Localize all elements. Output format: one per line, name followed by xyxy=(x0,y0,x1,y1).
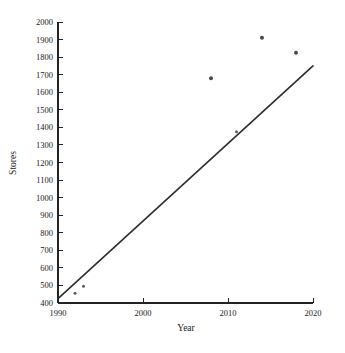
y-tick-label: 1000 xyxy=(36,193,53,203)
chart-container: 4005006007008009001000110012001300140015… xyxy=(0,0,345,353)
y-tick-label: 500 xyxy=(40,280,53,290)
scatter-point xyxy=(209,76,213,80)
y-axis-ticks xyxy=(58,22,63,303)
y-axis: 4005006007008009001000110012001300140015… xyxy=(36,17,63,308)
x-tick-label: 1990 xyxy=(50,308,67,318)
y-tick-label: 1500 xyxy=(36,105,53,115)
y-tick-label: 1100 xyxy=(36,175,53,185)
y-tick-label: 1600 xyxy=(36,87,53,97)
x-axis-ticks xyxy=(58,298,313,303)
x-axis-tick-labels: 1990200020102020 xyxy=(50,308,322,318)
y-tick-label: 1300 xyxy=(36,140,53,150)
x-tick-label: 2010 xyxy=(220,308,237,318)
y-tick-label: 800 xyxy=(40,228,53,238)
data-series-layer xyxy=(58,36,313,299)
y-tick-label: 1900 xyxy=(36,35,53,45)
y-tick-label: 1800 xyxy=(36,52,53,62)
scatter-point xyxy=(235,130,238,133)
y-tick-label: 600 xyxy=(40,263,53,273)
y-tick-label: 700 xyxy=(40,245,53,255)
y-axis-title: Stores xyxy=(8,151,18,175)
scatter-point xyxy=(294,51,298,55)
x-axis: 1990200020102020 xyxy=(50,298,322,318)
trend-line-series xyxy=(58,66,313,299)
trend-line xyxy=(58,66,313,299)
y-tick-label: 400 xyxy=(40,298,53,308)
scatter-plot: 4005006007008009001000110012001300140015… xyxy=(0,0,345,353)
x-tick-label: 2020 xyxy=(305,308,322,318)
x-tick-label: 2000 xyxy=(135,308,152,318)
scatter-points-series xyxy=(74,36,299,295)
scatter-point xyxy=(74,292,77,295)
y-tick-label: 1400 xyxy=(36,122,53,132)
y-tick-label: 1200 xyxy=(36,158,53,168)
y-tick-label: 2000 xyxy=(36,17,53,27)
y-tick-label: 900 xyxy=(40,210,53,220)
scatter-point xyxy=(82,285,85,288)
y-axis-tick-labels: 4005006007008009001000110012001300140015… xyxy=(36,17,53,308)
scatter-point xyxy=(260,36,264,40)
y-tick-label: 1700 xyxy=(36,70,53,80)
x-axis-title: Year xyxy=(177,323,195,333)
